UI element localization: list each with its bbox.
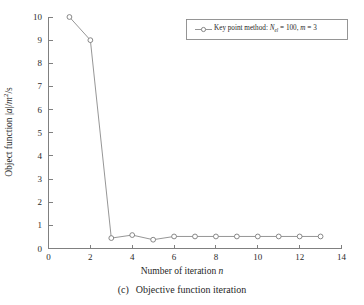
legend-entry-label: Key point method: Nel = 100, m = 3 <box>214 25 317 34</box>
legend-equals-3: = 3 <box>305 24 316 32</box>
y-axis-label-suffix: /s <box>4 87 14 93</box>
chart-plot-area <box>0 0 364 305</box>
y-axis-label-m: m <box>4 97 14 104</box>
series-data-point <box>297 234 302 239</box>
y-tick-label: 5 <box>26 128 42 137</box>
series-data-point <box>255 234 260 239</box>
legend-prefix: Key point method: <box>214 24 270 32</box>
series-data-point <box>130 233 135 238</box>
y-axis-label-prefix: Object function | <box>4 113 14 177</box>
series-data-point <box>234 234 239 239</box>
y-axis-label-a: a <box>4 108 14 113</box>
series-data-point <box>67 15 72 20</box>
y-tick-label: 2 <box>26 198 42 207</box>
y-tick-label: 1 <box>26 221 42 230</box>
y-axis-label-mid: |/ <box>4 104 14 109</box>
x-tick-label: 0 <box>46 253 51 262</box>
series-data-point <box>193 234 198 239</box>
x-tick-label: 12 <box>295 253 304 262</box>
y-axis-tick-marks <box>49 17 53 249</box>
series-data-point <box>214 234 219 239</box>
y-tick-label: 0 <box>26 244 42 253</box>
y-tick-label: 10 <box>26 13 42 22</box>
y-tick-label: 6 <box>26 105 42 114</box>
x-tick-label: 10 <box>253 253 262 262</box>
y-tick-label: 3 <box>26 175 42 184</box>
y-tick-label: 9 <box>26 36 42 45</box>
y-tick-label: 8 <box>26 59 42 68</box>
x-tick-label: 14 <box>337 253 346 262</box>
y-axis-label: Object function |a|/m2/s <box>2 87 14 177</box>
y-tick-label: 7 <box>26 82 42 91</box>
x-axis-tick-marks <box>49 245 342 249</box>
x-tick-label: 6 <box>172 253 177 262</box>
series-data-point <box>151 237 156 242</box>
legend-equals-100: = 100, <box>278 24 300 32</box>
legend-sample-marker <box>201 27 205 31</box>
figure-panel: 012345678910 02468101214 Object function… <box>0 0 364 305</box>
data-series-key-point-method <box>67 15 323 243</box>
series-line-path <box>69 17 320 240</box>
series-data-point <box>109 236 114 241</box>
series-data-point <box>318 234 323 239</box>
figure-caption: (c)Objective function iteration <box>0 284 364 295</box>
x-tick-label: 8 <box>214 253 219 262</box>
x-tick-label: 2 <box>88 253 93 262</box>
series-markers <box>67 15 323 243</box>
series-data-point <box>172 234 177 239</box>
series-data-point <box>276 234 281 239</box>
caption-text: Objective function iteration <box>136 284 247 295</box>
series-data-point <box>88 38 93 43</box>
x-tick-label: 4 <box>130 253 135 262</box>
y-axis-label-exponent: 2 <box>2 94 10 98</box>
y-tick-label: 4 <box>26 151 42 160</box>
x-axis-label-text: Number of iteration <box>141 266 216 276</box>
x-axis-label-variable: n <box>219 266 224 276</box>
x-axis-label: Number of iteration n <box>0 266 364 276</box>
caption-tag: (c) <box>118 284 129 295</box>
